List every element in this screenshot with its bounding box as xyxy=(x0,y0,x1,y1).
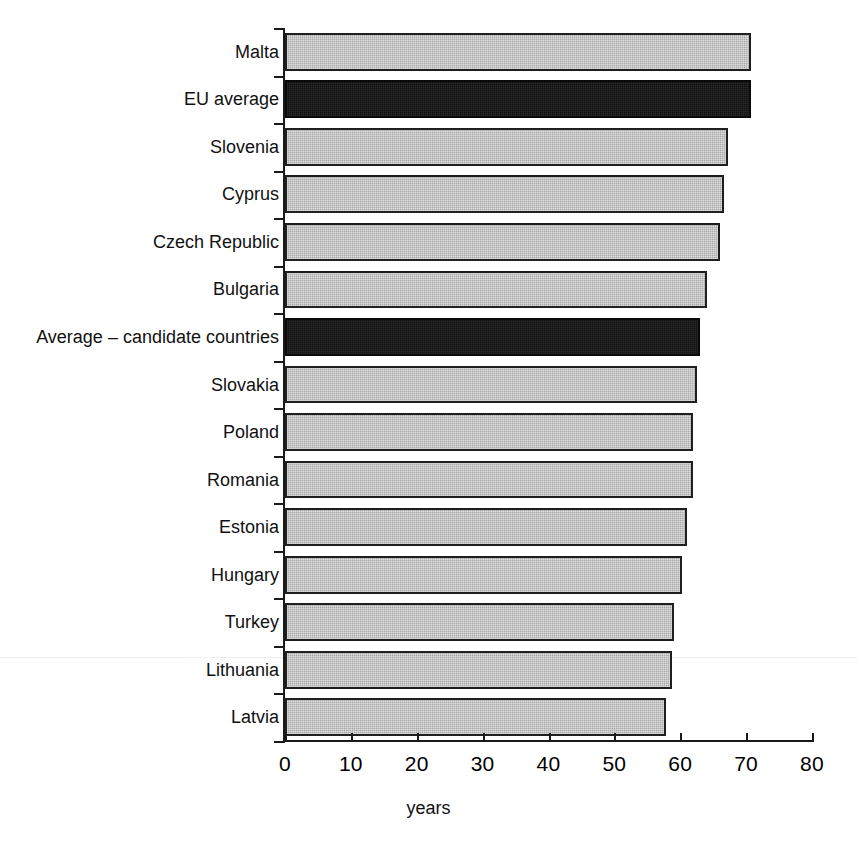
bar-row xyxy=(285,556,812,594)
y-tick xyxy=(274,313,283,315)
x-axis-title: years xyxy=(0,798,857,819)
x-tick-label: 0 xyxy=(255,752,315,776)
x-tick xyxy=(549,733,551,742)
y-axis-label: Malta xyxy=(0,43,279,61)
bar-row xyxy=(285,128,812,166)
y-tick xyxy=(274,741,283,743)
y-axis-label: Slovenia xyxy=(0,138,279,156)
x-tick-label: 40 xyxy=(519,752,579,776)
bar-slovenia[interactable] xyxy=(285,128,728,166)
y-tick xyxy=(274,218,283,220)
x-tick-label: 80 xyxy=(782,752,842,776)
bar-row xyxy=(285,461,812,499)
x-tick xyxy=(351,733,353,742)
y-axis-label: Poland xyxy=(0,423,279,441)
bar-hungary[interactable] xyxy=(285,556,682,594)
x-tick xyxy=(285,733,287,742)
bar-poland[interactable] xyxy=(285,413,693,451)
bar-latvia[interactable] xyxy=(285,698,666,736)
bar-row xyxy=(285,175,812,213)
x-tick xyxy=(746,733,748,742)
bar-slovakia[interactable] xyxy=(285,366,697,404)
bar-lithuania[interactable] xyxy=(285,651,672,689)
bar-row xyxy=(285,698,812,736)
bar-row xyxy=(285,603,812,641)
y-axis-label: Turkey xyxy=(0,613,279,631)
y-axis-label: Hungary xyxy=(0,566,279,584)
bar-row xyxy=(285,80,812,118)
y-tick xyxy=(274,123,283,125)
x-tick xyxy=(812,733,814,742)
bar-malta[interactable] xyxy=(285,33,751,71)
bar-row xyxy=(285,508,812,546)
bar-estonia[interactable] xyxy=(285,508,687,546)
bar-cyprus[interactable] xyxy=(285,175,724,213)
y-axis-label: EU average xyxy=(0,90,279,108)
x-tick-label: 20 xyxy=(387,752,447,776)
y-axis-label: Cyprus xyxy=(0,185,279,203)
bar-average-candidate-countries[interactable] xyxy=(285,318,700,356)
bar-row xyxy=(285,223,812,261)
y-axis-label: Average – candidate countries xyxy=(0,328,279,346)
y-tick xyxy=(274,408,283,410)
bar-chart-figure: MaltaEU averageSloveniaCyprusCzech Repub… xyxy=(0,0,857,843)
bar-row xyxy=(285,33,812,71)
y-tick xyxy=(274,28,283,30)
x-tick-label: 10 xyxy=(321,752,381,776)
bar-bulgaria[interactable] xyxy=(285,271,707,309)
x-tick xyxy=(680,733,682,742)
x-tick-label: 30 xyxy=(453,752,513,776)
x-tick-label: 70 xyxy=(716,752,776,776)
bar-row xyxy=(285,366,812,404)
bar-row xyxy=(285,271,812,309)
y-axis-label: Slovakia xyxy=(0,376,279,394)
bar-turkey[interactable] xyxy=(285,603,674,641)
y-axis-label: Latvia xyxy=(0,708,279,726)
bar-row xyxy=(285,318,812,356)
y-axis-label: Romania xyxy=(0,471,279,489)
y-axis-label: Czech Republic xyxy=(0,233,279,251)
y-tick xyxy=(274,361,283,363)
y-tick xyxy=(274,456,283,458)
plot-area xyxy=(285,28,812,741)
x-tick xyxy=(417,733,419,742)
bar-row xyxy=(285,651,812,689)
y-axis-label: Lithuania xyxy=(0,661,279,679)
y-tick xyxy=(274,503,283,505)
y-tick xyxy=(274,598,283,600)
bar-czech-republic[interactable] xyxy=(285,223,720,261)
y-axis-label: Estonia xyxy=(0,518,279,536)
x-tick-label: 60 xyxy=(650,752,710,776)
y-tick xyxy=(274,551,283,553)
y-tick xyxy=(274,171,283,173)
y-tick xyxy=(274,693,283,695)
x-tick-label: 50 xyxy=(584,752,644,776)
bar-romania[interactable] xyxy=(285,461,693,499)
bar-row xyxy=(285,413,812,451)
bar-eu-average[interactable] xyxy=(285,80,751,118)
y-tick xyxy=(274,266,283,268)
y-axis-label: Bulgaria xyxy=(0,280,279,298)
x-tick xyxy=(483,733,485,742)
y-tick xyxy=(274,76,283,78)
x-tick xyxy=(614,733,616,742)
y-tick xyxy=(274,646,283,648)
